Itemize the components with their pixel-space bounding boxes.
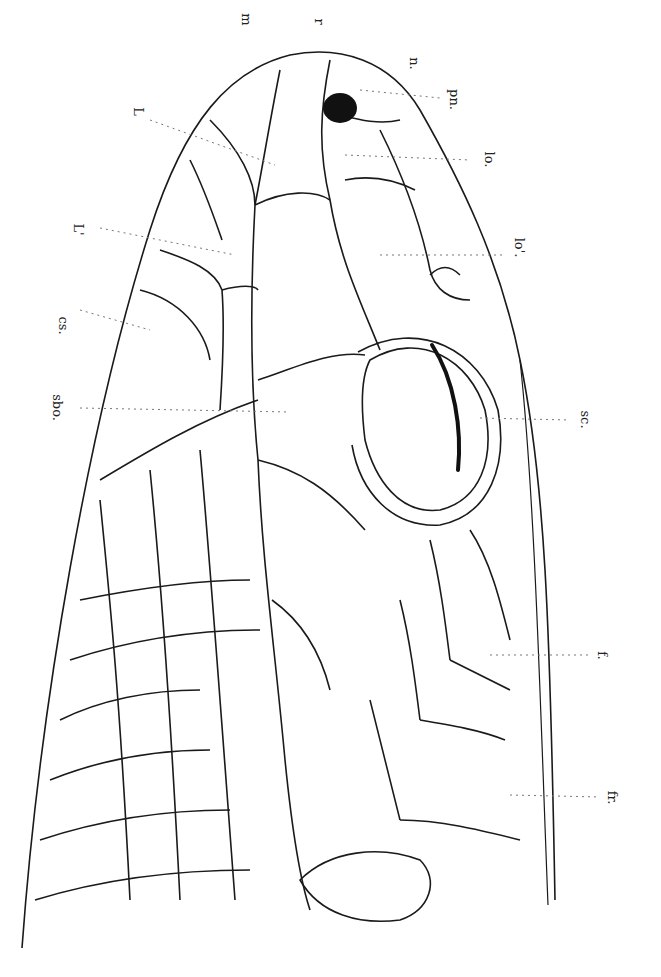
label-fr: fr. bbox=[605, 791, 620, 805]
label-r: r bbox=[312, 18, 327, 24]
label-lo: lo. bbox=[482, 152, 497, 168]
head-scales-drawing bbox=[0, 0, 661, 977]
figure-canvas: m r n. pn. lo. L L' lo'. cs. sbo. sc. f.… bbox=[0, 0, 661, 977]
label-sc: sc. bbox=[578, 410, 593, 428]
nostril bbox=[323, 93, 357, 123]
label-n: n. bbox=[407, 57, 422, 70]
label-L-prime: L' bbox=[71, 223, 86, 235]
label-pn: pn. bbox=[447, 89, 462, 110]
label-m: m bbox=[239, 13, 254, 25]
head-outline bbox=[22, 52, 555, 948]
label-L: L bbox=[131, 107, 146, 116]
label-lo-prime: lo'. bbox=[512, 238, 527, 258]
label-cs: cs. bbox=[56, 316, 71, 334]
label-f: f. bbox=[595, 651, 610, 659]
label-sbo: sbo. bbox=[50, 394, 65, 421]
